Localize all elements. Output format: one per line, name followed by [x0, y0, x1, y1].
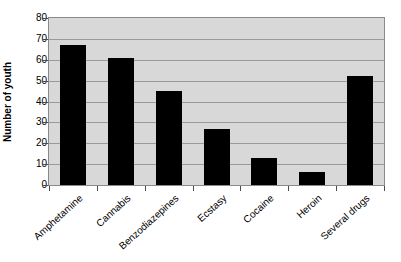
x-axis-tick-mark [193, 186, 194, 191]
gridline [49, 39, 384, 40]
y-axis-tick-mark [43, 18, 48, 19]
y-axis-tick-mark [43, 143, 48, 144]
x-axis-tick-mark [145, 186, 146, 191]
y-axis-tick-mark [43, 39, 48, 40]
bar [108, 58, 134, 185]
bar [347, 76, 373, 185]
gridline [49, 60, 384, 61]
x-axis-tick-mark [240, 186, 241, 191]
y-axis-tick-mark [43, 164, 48, 165]
bar [156, 91, 182, 185]
y-axis-tick-mark [43, 122, 48, 123]
gridline [49, 81, 384, 82]
gridline [49, 102, 384, 103]
y-axis-tick-mark [43, 60, 48, 61]
y-axis-tick-mark [43, 81, 48, 82]
x-axis-tick-mark [97, 186, 98, 191]
x-axis-tick-mark [336, 186, 337, 191]
x-axis-tick-mark [49, 186, 50, 191]
gridline [49, 122, 384, 123]
bar [60, 45, 86, 185]
y-axis-tick-mark [43, 102, 48, 103]
bar-chart-figure: Number of youth 01020304050607080Ampheta… [0, 0, 401, 262]
bar [299, 172, 325, 185]
y-axis-title: Number of youth [1, 44, 15, 160]
x-axis-tick-mark [384, 186, 385, 191]
bar [204, 129, 230, 185]
bar [251, 158, 277, 185]
x-axis-tick-mark [288, 186, 289, 191]
plot-area [48, 17, 385, 186]
y-axis-tick-mark [43, 185, 48, 186]
